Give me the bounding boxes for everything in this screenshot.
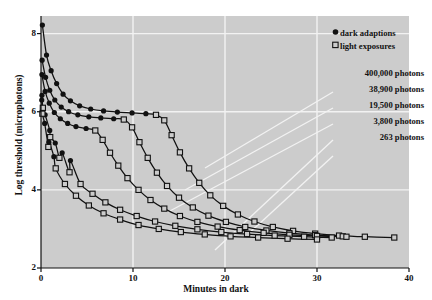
series-annotation-label: 38,900 photons <box>240 84 424 94</box>
data-point-light-exposure <box>208 193 213 198</box>
data-point-light-exposure <box>206 213 211 218</box>
data-point-light-exposure <box>329 235 334 240</box>
filled-circle-icon <box>331 27 340 38</box>
data-point-dark-adaption <box>129 110 134 115</box>
data-point-dark-adaption <box>98 115 103 120</box>
data-point-dark-adaption <box>86 114 91 119</box>
series-annotation-label: 263 photons <box>240 132 424 142</box>
data-point-light-exposure <box>136 187 141 192</box>
data-point-light-exposure <box>53 166 58 171</box>
data-point-light-exposure <box>237 228 242 233</box>
data-point-dark-adaption <box>51 154 56 159</box>
data-point-dark-adaption <box>58 116 63 121</box>
legend-label: dark adaptions <box>340 28 396 38</box>
data-point-light-exposure <box>57 155 62 160</box>
data-point-dark-adaption <box>101 108 106 113</box>
data-point-light-exposure <box>190 205 195 210</box>
data-point-dark-adaption <box>47 88 52 93</box>
data-point-light-exposure <box>270 224 275 229</box>
legend-item: light exposures <box>331 40 395 51</box>
data-point-light-exposure <box>272 233 277 238</box>
open-square-icon <box>331 40 340 51</box>
dark-adaptation-chart: Log threshold (microphotons) Minutes in … <box>0 0 432 300</box>
series-annotation-label: 400,000 photons <box>240 68 424 78</box>
y-axis-label: Log threshold (microphotons) <box>14 10 24 260</box>
data-point-light-exposure <box>177 150 182 155</box>
data-point-light-exposure <box>152 219 157 224</box>
data-point-light-exposure <box>121 117 126 122</box>
data-point-light-exposure <box>101 211 106 216</box>
x-tick-label: 40 <box>397 273 421 283</box>
series-annotation-label: 3,800 photons <box>240 116 424 126</box>
data-point-light-exposure <box>136 222 141 227</box>
x-tick-label: 0 <box>29 273 53 283</box>
data-point-light-exposure <box>145 155 150 160</box>
data-point-dark-adaption <box>52 97 57 102</box>
data-point-light-exposure <box>118 217 123 222</box>
data-point-light-exposure <box>153 112 158 117</box>
data-point-light-exposure <box>221 203 226 208</box>
data-point-light-exposure <box>176 195 181 200</box>
data-point-dark-adaption <box>42 121 47 126</box>
data-point-dark-adaption <box>52 110 57 115</box>
legend-label: light exposures <box>340 41 395 51</box>
data-point-light-exposure <box>93 128 98 133</box>
data-point-light-exposure <box>46 144 51 149</box>
data-point-dark-adaption <box>68 98 73 103</box>
y-tick-label: 8 <box>20 28 36 38</box>
data-point-dark-adaption <box>49 68 54 73</box>
data-point-dark-adaption <box>66 109 71 114</box>
data-point-dark-adaption <box>54 81 59 86</box>
data-point-light-exposure <box>148 197 153 202</box>
data-point-light-exposure <box>219 229 224 234</box>
data-point-dark-adaption <box>83 126 88 131</box>
data-point-dark-adaption <box>143 111 148 116</box>
data-point-light-exposure <box>73 193 78 198</box>
data-point-dark-adaption <box>40 58 45 63</box>
y-tick-label: 2 <box>20 262 36 272</box>
data-point-light-exposure <box>118 207 123 212</box>
data-point-dark-adaption <box>39 72 44 77</box>
x-tick-label: 10 <box>121 273 145 283</box>
data-point-light-exposure <box>129 125 134 130</box>
data-point-dark-adaption <box>39 93 44 98</box>
data-point-dark-adaption <box>53 140 58 145</box>
data-point-light-exposure <box>244 231 249 236</box>
data-point-light-exposure <box>302 234 307 239</box>
data-point-light-exposure <box>164 183 169 188</box>
x-tick-label: 30 <box>305 273 329 283</box>
data-point-light-exposure <box>285 236 290 241</box>
data-point-light-exposure <box>344 234 349 239</box>
data-point-light-exposure <box>137 140 142 145</box>
data-point-light-exposure <box>261 230 266 235</box>
data-point-light-exposure <box>256 235 261 240</box>
series-annotation-label: 19,500 photons <box>240 100 424 110</box>
legend-item: dark adaptions <box>331 27 396 38</box>
data-point-dark-adaption <box>88 106 93 111</box>
data-point-light-exposure <box>154 170 159 175</box>
data-point-dark-adaption <box>68 158 73 163</box>
data-point-light-exposure <box>156 226 161 231</box>
data-point-light-exposure <box>116 163 121 168</box>
data-point-light-exposure <box>62 181 67 186</box>
data-point-dark-adaption <box>39 97 44 102</box>
data-point-light-exposure <box>90 191 95 196</box>
data-point-light-exposure <box>177 213 182 218</box>
data-point-light-exposure <box>215 224 220 229</box>
data-point-light-exposure <box>314 237 319 242</box>
data-point-light-exposure <box>187 166 192 171</box>
data-point-dark-adaption <box>44 52 49 57</box>
x-axis-label: Minutes in dark <box>0 284 432 294</box>
data-point-dark-adaption <box>47 128 52 133</box>
data-point-dark-adaption <box>60 150 65 155</box>
data-point-dark-adaption <box>65 121 70 126</box>
y-tick-label: 4 <box>20 184 36 194</box>
data-point-light-exposure <box>243 224 248 229</box>
data-point-light-exposure <box>107 150 112 155</box>
data-point-dark-adaption <box>115 110 120 115</box>
x-tick-label: 20 <box>213 273 237 283</box>
data-point-light-exposure <box>195 227 200 232</box>
data-point-light-exposure <box>134 213 139 218</box>
data-point-light-exposure <box>202 232 207 237</box>
data-point-light-exposure <box>169 133 174 138</box>
